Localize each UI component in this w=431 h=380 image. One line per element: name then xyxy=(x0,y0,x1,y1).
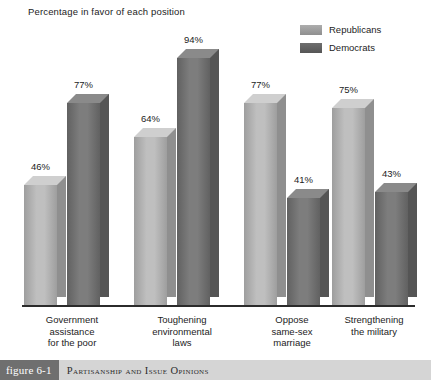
category-label-4: Strengtheningthe military xyxy=(320,314,428,337)
category-label-line: assistance xyxy=(12,326,132,338)
bar-side-face xyxy=(57,176,66,297)
bar-front-face xyxy=(177,58,210,306)
category-label-line: for the poor xyxy=(12,337,132,349)
value-label-democrats-group-3: 41% xyxy=(294,174,313,185)
bar-front-face xyxy=(375,192,408,306)
figure-number-tag: figure 6-1 xyxy=(0,360,59,380)
bar-side-face xyxy=(408,183,417,297)
bar-front-face xyxy=(134,137,167,306)
bar-democrats-group-2 xyxy=(177,49,219,306)
bar-side-face xyxy=(277,94,286,297)
category-label-line: Government xyxy=(12,314,132,326)
value-label-republicans-group-3: 77% xyxy=(251,79,270,90)
category-label-line: laws xyxy=(122,337,242,349)
category-label-1: Governmentassistancefor the poor xyxy=(12,314,132,349)
category-label-line: environmental xyxy=(122,326,242,338)
category-label-2: Tougheningenvironmentallaws xyxy=(122,314,242,349)
bar-front-face xyxy=(67,103,100,306)
bar-democrats-group-4 xyxy=(375,183,417,306)
bar-republicans-group-3 xyxy=(244,94,286,306)
value-label-democrats-group-4: 43% xyxy=(382,168,401,179)
bar-republicans-group-1 xyxy=(24,176,66,306)
x-axis-baseline xyxy=(22,305,415,307)
category-label-line: Strengthening xyxy=(320,314,428,326)
figure-partisanship-issue-opinions: Percentage in favor of each position Rep… xyxy=(0,0,431,380)
category-label-line: marriage xyxy=(232,337,352,349)
bar-side-face xyxy=(100,94,109,297)
bar-front-face xyxy=(244,103,277,306)
bar-front-face xyxy=(332,108,365,306)
bar-side-face xyxy=(365,99,374,297)
category-label-line: Toughening xyxy=(122,314,242,326)
value-label-republicans-group-2: 64% xyxy=(141,113,160,124)
value-label-republicans-group-4: 75% xyxy=(339,84,358,95)
bar-side-face xyxy=(210,49,219,297)
bar-republicans-group-2 xyxy=(134,128,176,306)
value-label-democrats-group-2: 94% xyxy=(184,34,203,45)
bar-side-face xyxy=(320,189,329,297)
bar-democrats-group-3 xyxy=(287,189,329,306)
bar-democrats-group-1 xyxy=(67,94,109,306)
plot-area: 46%77%64%94%77%41%75%43% Governmentassis… xyxy=(0,0,431,310)
bar-front-face xyxy=(24,185,57,306)
value-label-republicans-group-1: 46% xyxy=(31,161,50,172)
figure-caption-band: Partisanship and Issue Opinions xyxy=(59,360,431,380)
bar-front-face xyxy=(287,198,320,306)
bar-republicans-group-4 xyxy=(332,99,374,306)
category-label-line: the military xyxy=(320,326,428,338)
bar-side-face xyxy=(167,128,176,297)
value-label-democrats-group-1: 77% xyxy=(74,79,93,90)
figure-caption-bar: figure 6-1 Partisanship and Issue Opinio… xyxy=(0,360,431,380)
figure-caption-text: Partisanship and Issue Opinions xyxy=(67,365,209,376)
